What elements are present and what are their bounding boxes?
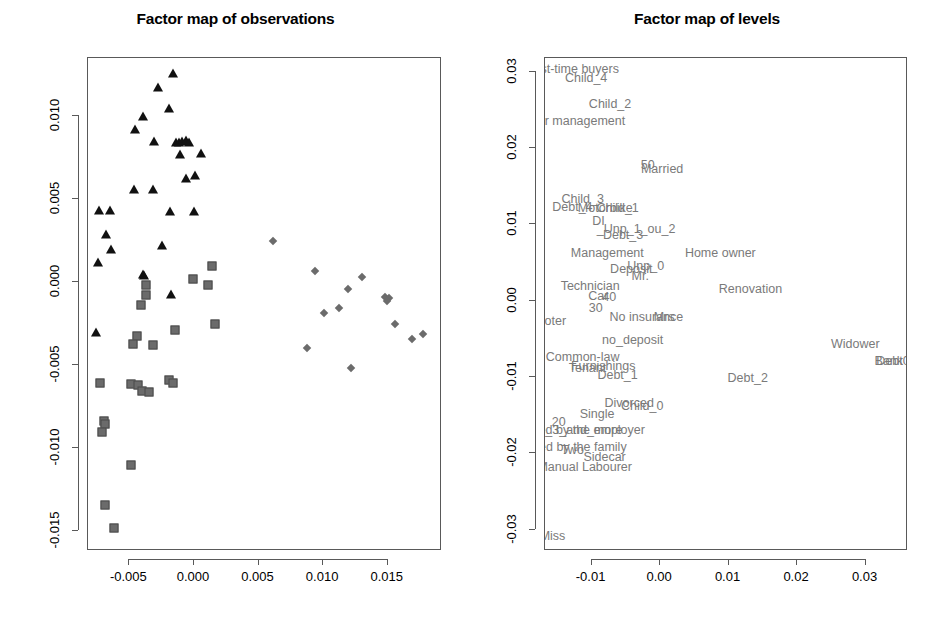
data-point-triangle: [106, 244, 116, 253]
data-point-triangle: [184, 138, 194, 147]
y-tick: [72, 115, 78, 116]
y-tick-label: -0.02: [504, 437, 519, 467]
level-label: Widower: [831, 338, 880, 351]
y-tick: [72, 198, 78, 199]
y-tick: [529, 147, 535, 148]
data-point-triangle: [157, 241, 167, 250]
y-tick-label: -0.005: [47, 346, 62, 383]
data-point-square: [136, 300, 145, 309]
y-tick-label: 0.00: [504, 287, 519, 312]
level-label: Renovation: [719, 283, 782, 296]
data-point-triangle: [105, 205, 115, 214]
x-tick-label: 0.03: [852, 569, 877, 584]
x-tick: [728, 559, 729, 565]
data-point-triangle: [196, 149, 206, 158]
data-point-square: [169, 378, 178, 387]
data-point-diamond: [408, 335, 416, 343]
data-point-square: [142, 281, 151, 290]
data-point-triangle: [138, 112, 148, 121]
x-tick-label: -0.01: [576, 569, 606, 584]
x-tick: [193, 559, 194, 565]
y-tick: [529, 71, 535, 72]
level-label: Debt_3: [603, 229, 643, 242]
data-point-triangle: [165, 206, 175, 215]
y-tick: [72, 447, 78, 448]
level-label: Lodged by the employer: [545, 424, 645, 437]
y-axis-line: [535, 71, 536, 529]
level-label: Home owner: [685, 247, 756, 260]
y-tick-label: 0.000: [47, 265, 62, 298]
y-tick: [72, 530, 78, 531]
level-label: Debt0: [876, 355, 906, 368]
level-label: ooter: [545, 314, 566, 327]
data-point-triangle: [153, 82, 163, 91]
data-point-square: [142, 290, 151, 299]
data-point-square: [145, 388, 154, 397]
data-point-diamond: [334, 304, 342, 312]
level-label: Married: [641, 163, 683, 176]
data-point-square: [128, 340, 137, 349]
level-label: Miss: [545, 529, 565, 542]
y-tick: [529, 223, 535, 224]
data-point-diamond: [358, 273, 366, 281]
data-point-triangle: [189, 206, 199, 215]
panel-factor-map-levels: Factor map of levels First-time buyersCh…: [471, 0, 943, 623]
data-point-triangle: [138, 270, 148, 279]
data-point-diamond: [269, 236, 277, 244]
level-label: Debt_1: [597, 369, 637, 382]
data-point-square: [149, 341, 158, 350]
data-point-triangle: [175, 150, 185, 159]
x-tick-label: 0.02: [783, 569, 808, 584]
level-label: Child_4: [565, 72, 607, 85]
data-point-triangle: [91, 327, 101, 336]
y-tick-label: 0.005: [47, 182, 62, 215]
left-plot-surface: [88, 58, 440, 549]
level-label: Child_2: [589, 98, 631, 111]
x-tick: [865, 559, 866, 565]
right-panel-title: Factor map of levels: [471, 10, 943, 28]
x-tick-label: 0.00: [646, 569, 671, 584]
y-tick: [72, 281, 78, 282]
data-point-diamond: [303, 344, 311, 352]
x-tick-label: -0.005: [110, 569, 147, 584]
left-panel-title: Factor map of observations: [0, 10, 471, 28]
level-label: Mr.: [632, 269, 649, 282]
y-tick: [529, 452, 535, 453]
x-tick: [591, 559, 592, 565]
left-plot-box: [87, 57, 441, 550]
x-tick: [659, 559, 660, 565]
y-tick-label: 0.01: [504, 211, 519, 236]
level-label: Manual Labourer: [545, 461, 632, 474]
x-tick: [322, 559, 323, 565]
y-tick: [529, 376, 535, 377]
level-label: Two: [561, 444, 584, 457]
data-point-triangle: [93, 258, 103, 267]
y-tick-label: -0.03: [504, 514, 519, 544]
data-point-diamond: [347, 364, 355, 372]
x-tick: [258, 559, 259, 565]
data-point-square: [97, 428, 106, 437]
data-point-square: [208, 262, 217, 271]
data-point-square: [126, 460, 135, 469]
data-point-diamond: [418, 329, 426, 337]
data-point-triangle: [149, 136, 159, 145]
x-tick-label: 0.01: [715, 569, 740, 584]
data-point-triangle: [190, 170, 200, 179]
panel-factor-map-observations: Factor map of observations -0.0050.0000.…: [0, 0, 471, 623]
y-tick: [529, 300, 535, 301]
data-point-square: [171, 326, 180, 335]
y-tick: [529, 529, 535, 530]
y-tick-label: 0.03: [504, 58, 519, 83]
data-point-triangle: [129, 185, 139, 194]
right-plot-surface: First-time buyersChild_4Child_2Senior ma…: [545, 58, 906, 549]
level-label: 30: [589, 301, 603, 314]
y-axis-line: [78, 115, 79, 530]
data-point-square: [100, 501, 109, 510]
y-tick-label: 0.010: [47, 99, 62, 132]
x-tick: [796, 559, 797, 565]
data-point-square: [189, 274, 198, 283]
data-point-triangle: [164, 104, 174, 113]
level-label: Child_0: [621, 400, 663, 413]
data-point-diamond: [311, 267, 319, 275]
data-point-triangle: [148, 185, 158, 194]
